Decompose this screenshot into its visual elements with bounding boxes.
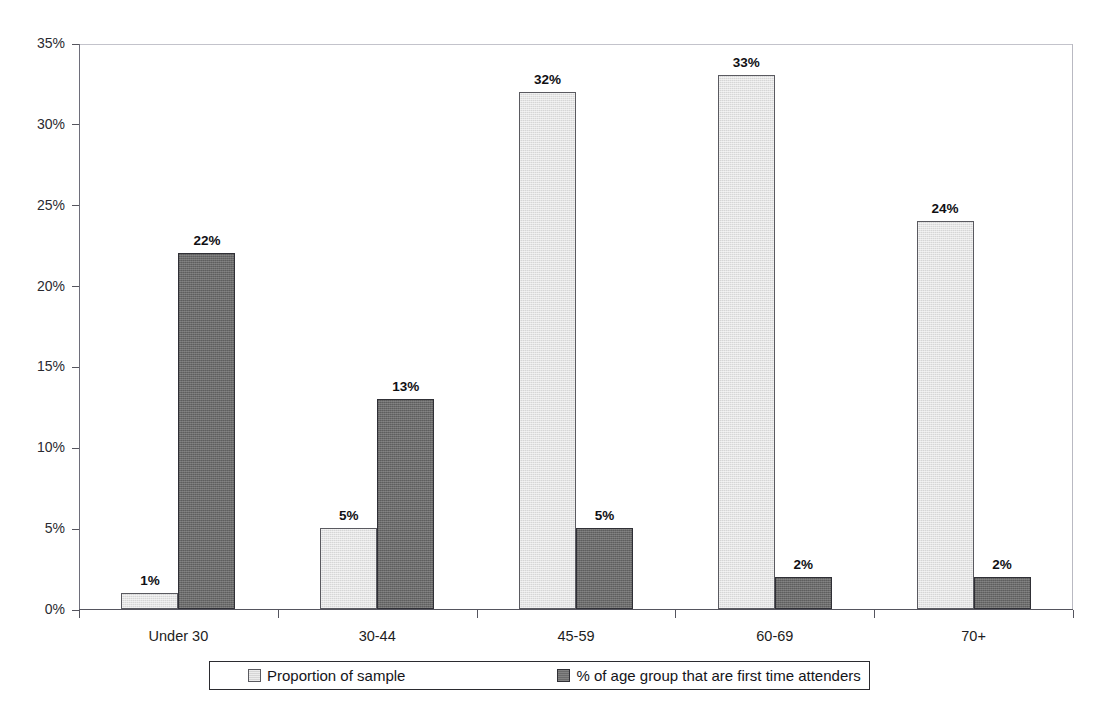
legend-entry-proportion-of-sample: Proportion of sample bbox=[248, 667, 405, 684]
y-axis-tick bbox=[72, 205, 79, 206]
x-axis-tick bbox=[1073, 610, 1074, 618]
bar bbox=[718, 75, 775, 609]
bar bbox=[121, 593, 178, 609]
bar bbox=[320, 528, 377, 609]
y-axis-tick bbox=[72, 286, 79, 287]
x-axis-category-label: Under 30 bbox=[149, 628, 209, 644]
x-axis-tick bbox=[79, 610, 80, 618]
bar-value-label: 22% bbox=[193, 233, 220, 248]
x-axis-category-label: 45-59 bbox=[557, 628, 594, 644]
legend-swatch-light-grey-icon bbox=[248, 669, 261, 682]
x-axis-line bbox=[79, 609, 1073, 610]
bar-value-label: 1% bbox=[140, 573, 160, 588]
y-axis-tick bbox=[72, 610, 79, 611]
y-axis-tick bbox=[72, 448, 79, 449]
y-axis-tick bbox=[72, 529, 79, 530]
y-axis-tick-label: 20% bbox=[0, 278, 65, 294]
plot-area: 1%22%5%13%32%5%33%2%24%2% bbox=[79, 44, 1073, 610]
bar-value-label: 5% bbox=[595, 508, 615, 523]
y-axis-tick-label: 25% bbox=[0, 197, 65, 213]
legend-label: Proportion of sample bbox=[267, 667, 405, 684]
x-axis-category-label: 70+ bbox=[961, 628, 986, 644]
bar bbox=[775, 577, 832, 609]
chart-legend: Proportion of sample % of age group that… bbox=[209, 661, 870, 690]
bar bbox=[917, 221, 974, 609]
bar bbox=[974, 577, 1031, 609]
x-axis-tick bbox=[675, 610, 676, 618]
x-axis-category-label: 30-44 bbox=[359, 628, 396, 644]
bar-value-label: 32% bbox=[534, 72, 561, 87]
x-axis-category-label: 60-69 bbox=[756, 628, 793, 644]
y-axis-tick-label: 15% bbox=[0, 358, 65, 374]
legend-entry-first-time-attenders: % of age group that are first time atten… bbox=[557, 667, 860, 684]
y-axis-tick-label: 35% bbox=[0, 35, 65, 51]
bar-value-label: 13% bbox=[392, 379, 419, 394]
bar-value-label: 5% bbox=[339, 508, 359, 523]
y-axis-tick bbox=[72, 367, 79, 368]
bar-value-label: 2% bbox=[992, 557, 1012, 572]
bar-value-label: 24% bbox=[932, 201, 959, 216]
x-axis-tick bbox=[278, 610, 279, 618]
y-axis-tick-label: 30% bbox=[0, 116, 65, 132]
bar-value-label: 2% bbox=[794, 557, 814, 572]
bar bbox=[576, 528, 633, 609]
x-axis-tick bbox=[477, 610, 478, 618]
bar bbox=[377, 399, 434, 609]
y-axis-tick-label: 0% bbox=[0, 601, 65, 617]
plot-right-border bbox=[1072, 44, 1073, 610]
gridline-top bbox=[79, 44, 1073, 45]
y-axis-line bbox=[79, 44, 80, 610]
y-axis-tick bbox=[72, 44, 79, 45]
y-axis-tick-label: 10% bbox=[0, 439, 65, 455]
legend-swatch-dark-grey-icon bbox=[557, 669, 570, 682]
x-axis-tick bbox=[874, 610, 875, 618]
bar bbox=[519, 92, 576, 609]
bar bbox=[178, 253, 235, 609]
bar-chart: 0%5%10%15%20%25%30%35% 1%22%5%13%32%5%33… bbox=[0, 0, 1109, 719]
y-axis-tick-label: 5% bbox=[0, 520, 65, 536]
legend-label: % of age group that are first time atten… bbox=[576, 667, 860, 684]
y-axis-tick bbox=[72, 124, 79, 125]
bar-value-label: 33% bbox=[733, 55, 760, 70]
